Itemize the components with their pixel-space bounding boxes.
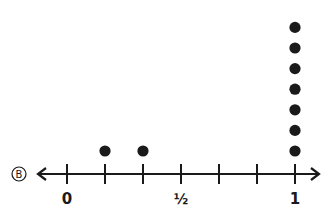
- data-dot: [289, 125, 300, 136]
- data-dot: [289, 63, 300, 74]
- problem-label-badge: B: [12, 167, 26, 181]
- number-line: [38, 168, 319, 180]
- data-dot: [289, 145, 300, 156]
- data-dot: [99, 145, 110, 156]
- tick-label: 0: [62, 190, 72, 208]
- data-dot: [289, 42, 300, 53]
- data-dot: [137, 145, 148, 156]
- data-dot: [289, 84, 300, 95]
- data-dots: [99, 22, 300, 157]
- dot-plot: B 0½1: [0, 0, 335, 208]
- data-dot: [289, 104, 300, 115]
- data-dot: [289, 22, 300, 33]
- tick-label: ½: [174, 191, 189, 207]
- problem-label: B: [16, 169, 23, 180]
- tick-labels: 0½1: [62, 190, 300, 208]
- tick-label: 1: [290, 190, 300, 208]
